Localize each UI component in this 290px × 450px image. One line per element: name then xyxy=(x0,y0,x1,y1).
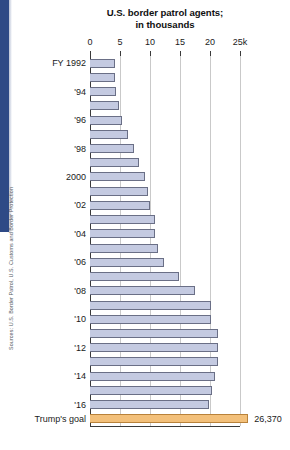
bar-segment xyxy=(90,244,158,253)
bar-segment xyxy=(90,301,211,310)
category-label: 2000 xyxy=(66,172,86,182)
plot-area: 0510152025k26,370 xyxy=(90,56,240,426)
bar-row xyxy=(90,343,240,352)
x-tick-mark xyxy=(180,51,181,56)
bar-row xyxy=(90,73,240,82)
bar-segment xyxy=(90,258,164,267)
bar-row xyxy=(90,329,240,338)
bar-segment xyxy=(90,286,195,295)
category-label: '96 xyxy=(74,115,86,125)
bar-segment xyxy=(90,315,211,324)
bar-segment xyxy=(90,272,179,281)
chart-title-line2: in thousands xyxy=(60,19,270,31)
category-label: '94 xyxy=(74,87,86,97)
category-label: '12 xyxy=(74,343,86,353)
bar-row xyxy=(90,286,240,295)
x-tick-mark xyxy=(90,51,91,56)
bar-row xyxy=(90,101,240,110)
bar-segment xyxy=(90,329,218,338)
bar-row xyxy=(90,144,240,153)
chart-title: U.S. border patrol agents; in thousands xyxy=(60,7,270,30)
category-label: '10 xyxy=(74,314,86,324)
bar-row xyxy=(90,172,240,181)
bar-segment xyxy=(90,343,218,352)
chart-canvas: Sources: U.S. Border Patrol, U.S. Custom… xyxy=(0,0,290,450)
gridline xyxy=(240,56,241,426)
category-label: '14 xyxy=(74,371,86,381)
category-label: '98 xyxy=(74,144,86,154)
bar-row xyxy=(90,244,240,253)
bar-segment xyxy=(90,187,148,196)
gridline xyxy=(120,56,121,426)
x-tick-label: 15 xyxy=(175,37,185,47)
category-label: FY 1992 xyxy=(52,58,86,68)
x-tick-mark xyxy=(210,51,211,56)
y-axis-line xyxy=(90,56,91,426)
bar-segment xyxy=(90,229,155,238)
bar-segment xyxy=(90,172,145,181)
bar-row xyxy=(90,215,240,224)
bar-row xyxy=(90,400,240,409)
x-tick-mark xyxy=(120,51,121,56)
bar-segment xyxy=(90,357,218,366)
x-tick-label: 10 xyxy=(145,37,155,47)
category-label: '04 xyxy=(74,229,86,239)
bar-trumps-goal xyxy=(90,414,248,423)
category-label: '06 xyxy=(74,257,86,267)
bar-segment xyxy=(90,400,209,409)
bar-segment xyxy=(90,144,134,153)
bar-segment xyxy=(90,158,139,167)
x-tick-label: 25k xyxy=(233,37,248,47)
bar-row xyxy=(90,386,240,395)
bar-segment xyxy=(90,87,116,96)
bar-segment xyxy=(90,130,128,139)
bar-row xyxy=(90,315,240,324)
bar-value-label: 26,370 xyxy=(254,414,282,424)
bar-segment xyxy=(90,372,215,381)
gridline xyxy=(210,56,211,426)
bar-row xyxy=(90,272,240,281)
bar-row: 26,370 xyxy=(90,414,240,423)
x-tick-label: 20 xyxy=(205,37,215,47)
bar-row xyxy=(90,258,240,267)
x-tick-mark xyxy=(150,51,151,56)
bar-row xyxy=(90,229,240,238)
x-tick-label: 5 xyxy=(117,37,122,47)
x-axis-baseline xyxy=(90,426,240,427)
bar-row xyxy=(90,158,240,167)
category-label: '08 xyxy=(74,286,86,296)
bar-row xyxy=(90,59,240,68)
category-label: Trump's goal xyxy=(35,414,86,424)
bar-row xyxy=(90,87,240,96)
category-axis: FY 1992'94'96'982000'02'04'06'08'10'12'1… xyxy=(0,56,86,426)
bar-segment xyxy=(90,201,150,210)
chart-title-line1: U.S. border patrol agents; xyxy=(60,7,270,19)
bar-segment xyxy=(90,215,155,224)
x-tick-label: 0 xyxy=(87,37,92,47)
bar-row xyxy=(90,116,240,125)
gridline xyxy=(150,56,151,426)
gridline xyxy=(180,56,181,426)
bar-row xyxy=(90,357,240,366)
bar-segment xyxy=(90,101,119,110)
bar-row xyxy=(90,201,240,210)
category-label: '02 xyxy=(74,200,86,210)
bar-row xyxy=(90,372,240,381)
bar-row xyxy=(90,301,240,310)
bar-segment xyxy=(90,116,122,125)
bar-segment xyxy=(90,386,212,395)
bar-row xyxy=(90,130,240,139)
bar-segment xyxy=(90,73,115,82)
category-label: '16 xyxy=(74,400,86,410)
bar-segment xyxy=(90,59,115,68)
bar-row xyxy=(90,187,240,196)
x-tick-mark xyxy=(240,51,241,56)
